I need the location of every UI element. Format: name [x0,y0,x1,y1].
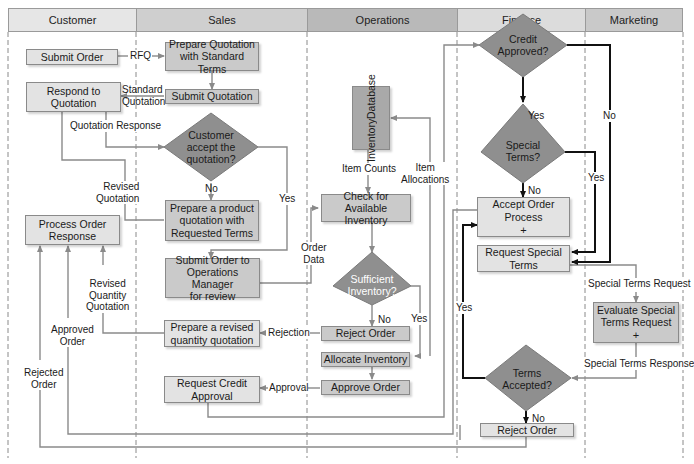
edge-label-yes-terms: Yes [456,302,472,314]
box-label: Reject Order [497,424,557,436]
box-label: Allocate Inventory [324,353,407,365]
box-label: Database [365,74,377,119]
approve-order-box[interactable]: Approve Order [321,380,410,395]
customer-accept-decision[interactable]: Customeraccept thequotation? [172,125,250,169]
subprocess-plus-icon: + [633,330,639,341]
accept-order-process-box[interactable]: Accept OrderProcess+ [477,197,570,237]
decision-label: accept the [186,141,235,153]
decision-label: Credit [498,33,549,45]
edge-label-quotation-response: Quotation Response [70,120,161,132]
inventory-database-box[interactable]: InventoryDatabase [352,86,390,150]
credit-approved-decision[interactable]: CreditApproved? [495,30,551,60]
box-label: Request Credit [177,377,247,389]
edge-label-rejected-order: RejectedOrder [24,367,63,390]
box-label: Reject Order [336,327,396,339]
check-inventory-box[interactable]: Check forAvailable Inventory [321,194,411,222]
evaluate-special-terms-box[interactable]: Evaluate SpecialTerms Request+ [593,302,679,343]
box-label: Terms Request [601,316,672,328]
edge-label-no-terms: No [532,413,545,425]
box-label: Approve Order [331,381,400,393]
box-label: Submit Order to [175,254,249,266]
box-label: with Standard Terms [166,50,258,74]
decision-label: Special [506,139,540,151]
edge-label-item-allocations: ItemAllocations [401,162,449,185]
edge-label-yes-special: Yes [588,172,604,184]
sufficient-inventory-decision[interactable]: SufficientInventory? [340,272,404,298]
box-label: Requested Terms [171,227,253,239]
submit-order-box[interactable]: Submit Order [26,49,118,65]
edge-label-rfq: RFQ [130,50,151,62]
edge-label-special-terms-response: Special Terms Response [584,358,694,370]
edge-label-yes-accept: Yes [279,193,295,205]
box-label: Prepare Quotation [169,38,255,50]
prepare-quotation-box[interactable]: Prepare Quotationwith Standard Terms [165,42,259,71]
box-label: Respond to [47,85,101,97]
box-label: Request Special [485,246,561,258]
submit-order-operations-box[interactable]: Submit Order toOperations Managerfor rev… [165,258,260,298]
box-label: Quotation [51,97,97,109]
box-label: quantity quotation [171,334,254,346]
decision-label: quotation? [186,153,235,165]
box-label: Accept Order [493,198,555,210]
box-label: Prepare a product [170,202,254,214]
box-label: Terms [509,259,538,271]
box-label: Response [49,230,96,242]
box-label: for review [190,290,236,302]
request-credit-approval-box[interactable]: Request CreditApproval [164,376,260,403]
reject-order-finance-box[interactable]: Reject Order [480,423,574,437]
decision-label: Customer [186,129,235,141]
prepare-revised-quantity-box[interactable]: Prepare a revisedquantity quotation [164,320,260,347]
box-label: Submit Quotation [171,90,252,102]
edge-label-no-credit: No [603,110,616,122]
allocate-inventory-box[interactable]: Allocate Inventory [321,352,410,367]
edge-label-no-inventory: No [378,314,391,326]
respond-to-quotation-box[interactable]: Respond toQuotation [26,82,121,112]
decision-label: Approved? [498,45,549,57]
decision-label: Accepted? [502,379,552,391]
box-label: Prepare a revised [171,321,254,333]
edge-label-item-counts: Item Counts [342,163,396,175]
decision-label: Terms [502,367,552,379]
inventory-database-label: InventoryDatabase [353,87,389,149]
edge-label-special-terms-request: Special Terms Request [588,278,691,290]
edge-label-approval: Approval [269,382,308,394]
box-label: quotation with [180,214,245,226]
edge-label-order-data: OrderData [301,242,327,265]
edge-label-no-accept: No [205,183,218,195]
edge-label-yes-credit: Yes [528,110,544,122]
edge-label-approved-order: ApprovedOrder [51,324,94,347]
box-label: Available Inventory [322,202,410,226]
box-label: Check for [344,190,389,202]
box-label: Evaluate Special [597,304,675,316]
special-terms-decision[interactable]: SpecialTerms? [497,136,549,166]
box-label: Approval [191,390,232,402]
prepare-product-quotation-box[interactable]: Prepare a productquotation withRequested… [165,200,259,241]
decision-label: Sufficient [347,273,396,285]
edge-label-yes-inventory: Yes [411,313,427,325]
box-label: Process Order [39,218,107,230]
box-label: Submit Order [41,51,103,63]
edge-label-no-special: No [528,185,541,197]
reject-order-ops-box[interactable]: Reject Order [321,326,410,341]
edge-label-standard-quotation: StandardQuotation [122,84,165,107]
edge-label-revised-quotation: RevisedQuotation [96,181,139,204]
box-label: Operations Manager [166,266,259,290]
submit-quotation-box[interactable]: Submit Quotation [165,89,259,104]
process-order-response-box[interactable]: Process OrderResponse [25,215,120,245]
decision-label: Terms? [506,151,540,163]
edge-label-revised-quantity-quotation: RevisedQuantityQuotation [86,278,129,313]
request-special-terms-box[interactable]: Request SpecialTerms [477,245,570,272]
edge-label-rejection: Rejection [268,327,310,339]
subprocess-plus-icon: + [520,225,526,236]
decision-label: Inventory? [347,285,396,297]
box-label: Process [505,211,543,223]
box-label: Inventory [365,119,377,162]
terms-accepted-decision[interactable]: TermsAccepted? [500,364,554,394]
